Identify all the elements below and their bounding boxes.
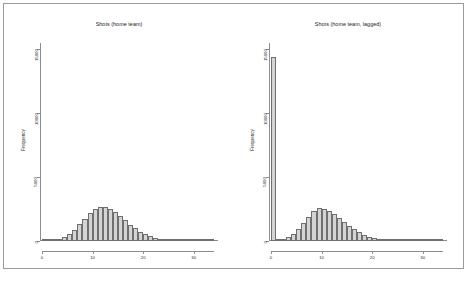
histogram-bar xyxy=(209,239,214,241)
histogram-bar xyxy=(438,239,443,241)
x-axis-tick-label: 0 xyxy=(270,256,272,260)
x-axis-tick-label: 30 xyxy=(420,256,425,260)
x-axis-tick xyxy=(143,251,144,254)
x-axis-line-right: 0102030 xyxy=(271,251,443,252)
histogram-bar xyxy=(271,57,276,241)
x-axis-tick xyxy=(194,251,195,254)
x-axis-tick-label: 0 xyxy=(41,256,43,260)
panel-title-right: Shots (home team, lagged) xyxy=(233,21,463,27)
plot-area-left: Frequency 050001000015000 0102030 xyxy=(40,39,218,241)
x-axis-tick-label: 10 xyxy=(90,256,95,260)
y-axis-tick-label: 15000 xyxy=(264,50,268,62)
x-axis-tick xyxy=(93,251,94,254)
y-axis-tick-label: 5000 xyxy=(35,177,39,187)
x-axis-tick xyxy=(423,251,424,254)
y-axis-tick-label: 10000 xyxy=(264,113,268,125)
histogram-panel-shots-home-team: Shots (home team) Frequency 050001000015… xyxy=(4,4,234,268)
x-axis-line-left: 0102030 xyxy=(42,251,214,252)
x-axis-tick-label: 20 xyxy=(141,256,146,260)
figure-frame: Shots (home team) Frequency 050001000015… xyxy=(3,3,464,269)
x-axis-tick-label: 30 xyxy=(191,256,196,260)
histogram-bars-right xyxy=(269,39,447,241)
y-axis-tick-label: 5000 xyxy=(264,177,268,187)
panel-title-left: Shots (home team) xyxy=(4,21,234,27)
y-axis-tick-label: 10000 xyxy=(35,113,39,125)
plot-area-right: Frequency 050001000015000 0102030 xyxy=(269,39,447,241)
x-axis-tick xyxy=(271,251,272,254)
y-axis-title-right: Frequency xyxy=(250,129,255,151)
x-axis-tick xyxy=(372,251,373,254)
x-axis-tick-label: 10 xyxy=(319,256,324,260)
x-axis-tick xyxy=(322,251,323,254)
y-axis-title-left: Frequency xyxy=(21,129,26,151)
x-axis-tick-label: 20 xyxy=(370,256,375,260)
y-axis-tick-label: 0 xyxy=(35,241,39,243)
histogram-panel-shots-home-team-lagged: Shots (home team, lagged) Frequency 0500… xyxy=(233,4,463,268)
y-axis-tick-label: 0 xyxy=(264,241,268,243)
histogram-bars-left xyxy=(40,39,218,241)
y-axis-tick-label: 15000 xyxy=(35,50,39,62)
x-axis-tick xyxy=(42,251,43,254)
